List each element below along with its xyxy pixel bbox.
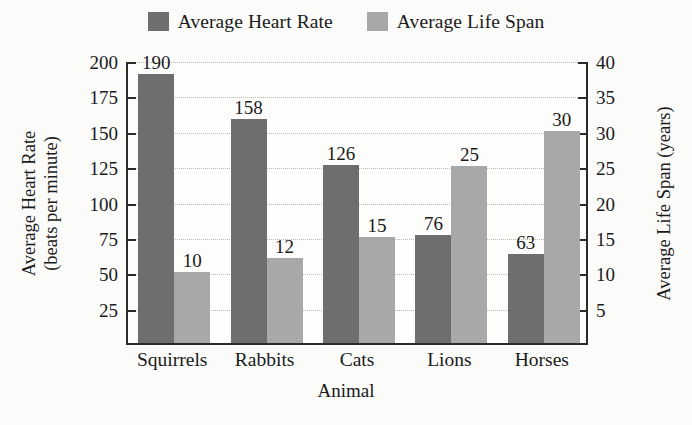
gridline <box>128 97 586 98</box>
x-axis-category-label: Squirrels <box>137 350 207 370</box>
y-axis-tick-label-left: 150 <box>90 124 119 143</box>
y-axis-tick-label-left: 125 <box>90 159 119 178</box>
legend-entry-life-span: Average Life Span <box>367 12 545 32</box>
bar-life-span: 10 <box>174 272 210 343</box>
y-axis-tick-left <box>127 274 136 276</box>
plot-area: 2550751001251501752005101520253035401901… <box>126 62 588 345</box>
y-axis-tick-right <box>578 62 587 64</box>
y-axis-tick-label-right: 40 <box>596 53 615 72</box>
y-axis-tick-left <box>127 239 136 241</box>
legend-label-heart-rate: Average Heart Rate <box>178 12 333 32</box>
bar-value-label: 10 <box>183 251 202 270</box>
y-axis-tick-left <box>127 62 136 64</box>
bar-value-label: 76 <box>424 214 443 233</box>
y-axis-title-left-line2: (beats per minute) <box>41 131 63 277</box>
bar-life-span: 25 <box>451 166 487 343</box>
y-axis-tick-label-left: 25 <box>99 301 118 320</box>
y-axis-tick-label-right: 15 <box>596 230 615 249</box>
bar-value-label: 190 <box>142 53 171 72</box>
y-axis-title-left: Average Heart Rate (beats per minute) <box>10 62 72 345</box>
bar-value-label: 30 <box>552 110 571 129</box>
y-axis-tick-label-right: 20 <box>596 195 615 214</box>
y-axis-tick-left <box>127 204 136 206</box>
bar-value-label: 126 <box>327 144 356 163</box>
bar-value-label: 12 <box>275 237 294 256</box>
y-axis-tick-label-left: 200 <box>90 53 119 72</box>
y-axis-title-right: Average Life Span (years) <box>645 62 685 345</box>
y-axis-title-left-line1: Average Heart Rate <box>19 131 41 277</box>
bar-heart-rate: 190 <box>138 74 174 343</box>
y-axis-tick-label-left: 50 <box>99 265 118 284</box>
chart-legend: Average Heart Rate Average Life Span <box>0 12 692 32</box>
bar-value-label: 15 <box>368 216 387 235</box>
chart-container: Average Heart Rate Average Life Span Ave… <box>0 0 692 425</box>
x-axis-title: Animal <box>0 380 692 402</box>
bar-heart-rate: 63 <box>508 254 544 343</box>
bar-value-label: 158 <box>234 98 263 117</box>
y-axis-tick-label-left: 175 <box>90 88 119 107</box>
y-axis-tick-left <box>127 168 136 170</box>
x-axis-category-label: Horses <box>515 350 569 370</box>
legend-swatch-heart-rate-icon <box>148 12 169 31</box>
y-axis-tick-left <box>127 310 136 312</box>
bar-heart-rate: 126 <box>323 165 359 343</box>
bar-life-span: 15 <box>359 237 395 343</box>
gridline <box>128 62 586 63</box>
legend-entry-heart-rate: Average Heart Rate <box>148 12 333 32</box>
bar-life-span: 30 <box>544 131 580 343</box>
y-axis-tick-label-right: 35 <box>596 88 615 107</box>
bar-life-span: 12 <box>267 258 303 343</box>
bar-value-label: 25 <box>460 145 479 164</box>
y-axis-tick-left <box>127 97 136 99</box>
bar-heart-rate: 76 <box>415 235 451 343</box>
gridline <box>128 133 586 134</box>
y-axis-tick-right <box>578 97 587 99</box>
y-axis-tick-label-right: 10 <box>596 265 615 284</box>
y-axis-tick-label-right: 5 <box>596 301 606 320</box>
y-axis-tick-label-right: 30 <box>596 124 615 143</box>
y-axis-tick-label-left: 75 <box>99 230 118 249</box>
x-axis-category-label: Cats <box>340 350 375 370</box>
legend-swatch-life-span-icon <box>367 12 388 31</box>
y-axis-tick-left <box>127 133 136 135</box>
y-axis-tick-label-left: 100 <box>90 195 119 214</box>
bar-heart-rate: 158 <box>231 119 267 343</box>
x-axis-category-label: Lions <box>427 350 471 370</box>
bar-value-label: 63 <box>516 233 535 252</box>
y-axis-tick-label-right: 25 <box>596 159 615 178</box>
legend-label-life-span: Average Life Span <box>397 12 545 32</box>
x-axis-category-label: Rabbits <box>235 350 295 370</box>
